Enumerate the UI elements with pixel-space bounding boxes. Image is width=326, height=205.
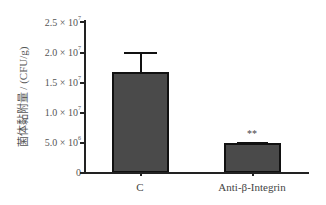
y-tick	[80, 142, 85, 144]
y-tick	[80, 21, 85, 23]
y-tick-label-2: 1.0 × 107	[45, 107, 81, 118]
y-tick	[80, 112, 85, 114]
x-tick	[252, 172, 254, 176]
error-bar-c	[140, 52, 142, 73]
y-tick-label-3: 1.5 × 107	[45, 77, 81, 88]
significance-marker: **	[247, 128, 257, 139]
bar-c	[112, 72, 169, 173]
y-tick	[80, 52, 85, 54]
x-label-anti-beta-integrin: Anti-β-Integrin	[218, 181, 285, 193]
y-tick-label-5: 2.5 × 107	[45, 17, 81, 28]
bar-anti-beta-integrin	[224, 143, 281, 173]
x-axis	[84, 172, 309, 174]
y-axis-title: 菌体黏附量 / (CFU/g)	[14, 47, 30, 148]
y-tick	[80, 82, 85, 84]
y-axis	[84, 20, 86, 173]
y-tick-label-4: 2.0 × 107	[45, 47, 81, 58]
x-label-c: C	[136, 181, 143, 193]
y-tick-label-1: 5.0 × 106	[45, 137, 81, 148]
x-tick	[140, 172, 142, 176]
